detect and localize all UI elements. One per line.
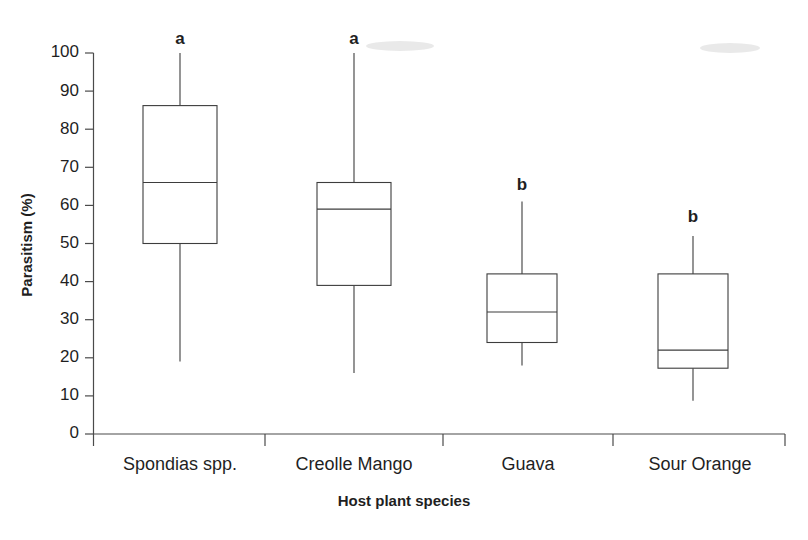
y-tick-label-90: 90 xyxy=(60,81,79,100)
y-tick-label-70: 70 xyxy=(60,157,79,176)
y-axis-tick-labels: 100 90 80 70 60 50 40 30 20 10 0 xyxy=(51,42,79,442)
y-axis-title: Parasitism (%) xyxy=(18,193,35,296)
x-axis: Spondias spp. Creolle Mango Guava Sour O… xyxy=(94,434,786,509)
y-axis-ticks xyxy=(85,53,94,434)
box-plot-sour-orange: b xyxy=(658,207,728,401)
x-label-spondias: Spondias spp. xyxy=(123,454,237,474)
y-tick-label-60: 60 xyxy=(60,195,79,214)
box-creolle-mango xyxy=(317,183,391,286)
significance-letter-sour-orange: b xyxy=(688,207,698,226)
box-plot-creolle-mango: a xyxy=(317,29,391,373)
box-sour-orange xyxy=(658,274,728,368)
box-plot-guava: b xyxy=(487,175,557,365)
x-label-guava: Guava xyxy=(501,454,555,474)
x-axis-separators xyxy=(94,434,786,446)
y-tick-label-20: 20 xyxy=(60,347,79,366)
y-tick-label-30: 30 xyxy=(60,309,79,328)
scan-artifacts xyxy=(366,41,760,53)
x-label-sour-orange: Sour Orange xyxy=(648,454,751,474)
smudge-left xyxy=(366,41,434,51)
box-plot-spondias: a xyxy=(143,29,217,362)
smudge-right xyxy=(700,43,760,53)
x-axis-title: Host plant species xyxy=(338,492,471,509)
box-plot-figure: 100 90 80 70 60 50 40 30 20 10 0 Parasit… xyxy=(0,0,808,540)
y-tick-label-0: 0 xyxy=(70,423,79,442)
box-guava xyxy=(487,274,557,343)
y-tick-label-100: 100 xyxy=(51,42,79,61)
x-axis-category-labels: Spondias spp. Creolle Mango Guava Sour O… xyxy=(123,454,752,474)
significance-letter-spondias: a xyxy=(175,29,185,48)
significance-letter-guava: b xyxy=(517,175,527,194)
y-tick-label-50: 50 xyxy=(60,233,79,252)
box-spondias xyxy=(143,106,217,244)
y-tick-label-80: 80 xyxy=(60,119,79,138)
y-tick-label-40: 40 xyxy=(60,271,79,290)
y-axis: 100 90 80 70 60 50 40 30 20 10 0 Parasit… xyxy=(18,42,94,442)
x-label-creolle-mango: Creolle Mango xyxy=(295,454,412,474)
box-plot-svg: 100 90 80 70 60 50 40 30 20 10 0 Parasit… xyxy=(0,0,808,540)
significance-letter-creolle-mango: a xyxy=(349,29,359,48)
y-tick-label-10: 10 xyxy=(60,385,79,404)
